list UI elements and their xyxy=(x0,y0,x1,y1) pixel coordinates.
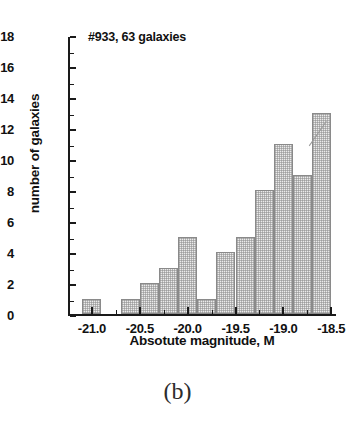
plot-area: -21.0-20.5-20.0-19.5-19.0-18.5 xyxy=(68,37,336,316)
y-axis-tick xyxy=(70,191,76,193)
y-tick-label: 6 xyxy=(7,215,14,230)
y-axis-tick xyxy=(70,98,76,100)
x-tick-label: -20.0 xyxy=(174,321,202,336)
histogram-bar xyxy=(159,268,178,315)
histogram-bar xyxy=(312,113,331,315)
y-tick-label: 14 xyxy=(0,91,14,106)
x-axis-minor-tick xyxy=(212,310,213,314)
figure-panel: #933, 63 galaxies number of galaxies Abs… xyxy=(0,0,355,431)
y-axis-minor-tick xyxy=(70,115,74,116)
x-tick-label: -19.0 xyxy=(269,321,297,336)
histogram-bar xyxy=(178,237,197,315)
y-tick-label: 2 xyxy=(7,277,14,292)
x-axis-minor-tick xyxy=(116,310,117,314)
y-axis-minor-tick xyxy=(70,84,74,85)
panel-caption: (b) xyxy=(0,378,355,405)
x-axis-minor-tick xyxy=(259,310,260,314)
histogram-bar xyxy=(274,144,293,315)
y-axis-minor-tick xyxy=(70,208,74,209)
y-axis-title: number of galaxies xyxy=(27,34,42,274)
y-axis-tick xyxy=(70,253,76,255)
y-tick-label: 0 xyxy=(7,308,14,323)
x-tick-label: -19.5 xyxy=(221,321,249,336)
y-axis-tick xyxy=(70,284,76,286)
x-axis-tick xyxy=(91,307,93,314)
y-axis-minor-tick xyxy=(70,301,74,302)
y-axis-tick xyxy=(70,315,76,317)
histogram-bar xyxy=(293,175,312,315)
x-tick-label: -18.5 xyxy=(317,321,345,336)
y-axis-minor-tick xyxy=(70,146,74,147)
y-axis-tick xyxy=(70,67,76,69)
y-tick-label: 16 xyxy=(0,60,14,75)
y-tick-label: 18 xyxy=(0,29,14,44)
y-axis-minor-tick xyxy=(70,270,74,271)
y-tick-label: 12 xyxy=(0,122,14,137)
x-axis-minor-tick xyxy=(164,310,165,314)
y-axis-minor-tick xyxy=(70,177,74,178)
x-axis-tick xyxy=(139,307,141,314)
y-tick-label: 10 xyxy=(0,153,14,168)
x-axis-tick xyxy=(330,307,332,314)
y-axis-tick xyxy=(70,129,76,131)
histogram-bar xyxy=(236,237,255,315)
x-axis-tick xyxy=(282,307,284,314)
x-axis-tick xyxy=(187,307,189,314)
histogram-bar xyxy=(121,299,140,315)
x-axis-minor-tick xyxy=(307,310,308,314)
y-tick-label: 4 xyxy=(7,246,14,261)
y-axis-tick xyxy=(70,222,76,224)
x-axis-line xyxy=(68,314,336,316)
y-tick-label: 8 xyxy=(7,184,14,199)
histogram-bar xyxy=(216,252,235,314)
histogram-bar xyxy=(140,283,159,314)
y-axis-tick xyxy=(70,160,76,162)
x-tick-label: -21.0 xyxy=(78,321,106,336)
y-axis-minor-tick xyxy=(70,53,74,54)
y-axis-minor-tick xyxy=(70,239,74,240)
x-axis-tick xyxy=(235,307,237,314)
histogram-bar xyxy=(255,190,274,314)
histogram-bar xyxy=(197,299,216,315)
x-tick-label: -20.5 xyxy=(126,321,154,336)
y-axis-tick xyxy=(70,36,76,38)
